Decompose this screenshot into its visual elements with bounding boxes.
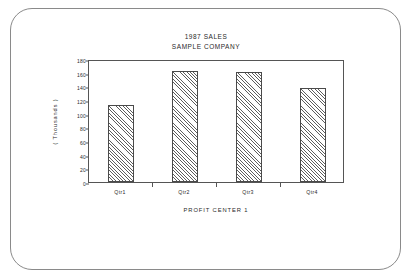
y-axis-tick-mark xyxy=(86,156,89,157)
bar-chart: 1987 SALES SAMPLE COMPANY ( Thousands ) … xyxy=(0,0,412,279)
y-axis-tick-mark xyxy=(86,74,89,75)
y-axis-tick-mark xyxy=(86,102,89,103)
y-axis-tick-mark xyxy=(86,88,89,89)
x-axis-tick-mark xyxy=(216,183,217,187)
y-axis-tick-mark xyxy=(86,61,89,62)
plot-area: 020406080100120140160180 xyxy=(88,60,344,183)
y-axis-tick-mark xyxy=(86,143,89,144)
y-axis-tick-label: 180 xyxy=(77,58,86,64)
bar xyxy=(108,105,135,182)
bar xyxy=(236,72,263,182)
bar xyxy=(300,88,327,182)
y-axis-tick-mark xyxy=(86,184,89,185)
y-axis-tick-label: 100 xyxy=(77,113,86,119)
y-axis-tick-mark xyxy=(86,115,89,116)
y-axis-tick-mark xyxy=(86,170,89,171)
chart-subtitle: SAMPLE COMPANY xyxy=(0,43,412,50)
x-axis-label: PROFIT CENTER 1 xyxy=(88,207,344,213)
x-axis-tick-label: Qtr3 xyxy=(242,189,253,195)
x-axis-tick-label: Qtr1 xyxy=(114,189,125,195)
x-axis-tick-label: Qtr2 xyxy=(178,189,189,195)
y-axis-label: ( Thousands ) xyxy=(52,60,62,183)
y-axis-tick-label: 120 xyxy=(77,99,86,105)
x-axis-tick-mark xyxy=(280,183,281,187)
y-axis-tick-label: 160 xyxy=(77,72,86,78)
x-axis-tick-mark xyxy=(152,183,153,187)
y-axis-tick-mark xyxy=(86,129,89,130)
bar xyxy=(172,71,199,182)
y-axis-tick-label: 140 xyxy=(77,85,86,91)
chart-title: 1987 SALES xyxy=(0,33,412,40)
x-axis-tick-label: Qtr4 xyxy=(306,189,317,195)
